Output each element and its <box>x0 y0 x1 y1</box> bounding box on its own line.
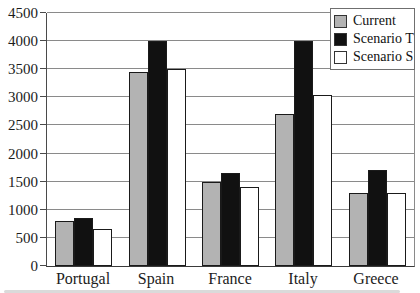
bar-scenario-s-greece <box>387 193 406 266</box>
legend-label-scenario-t: Scenario T <box>353 31 414 47</box>
bar-current-italy <box>275 114 294 266</box>
x-category-label-greece: Greece <box>331 270 420 288</box>
bar-scenario-t-france <box>221 173 240 266</box>
legend-item-scenario-t: Scenario T <box>334 30 411 48</box>
legend-swatch-scenario-t <box>334 33 347 46</box>
y-tick-label-4500: 4500 <box>0 5 38 21</box>
bar-scenario-t-italy <box>294 41 313 266</box>
y-tick-label-0: 0 <box>0 258 38 274</box>
bar-scenario-s-france <box>240 187 259 266</box>
legend-label-scenario-s: Scenario S <box>353 49 413 65</box>
bar-current-france <box>202 182 221 266</box>
bar-current-greece <box>349 193 368 266</box>
y-tick-label-2500: 2500 <box>0 117 38 133</box>
bar-scenario-t-portugal <box>74 218 93 266</box>
gridline-2500 <box>47 124 414 125</box>
y-tick-label-3000: 3000 <box>0 89 38 105</box>
bar-current-portugal <box>55 221 74 266</box>
y-tick-label-500: 500 <box>0 230 38 246</box>
y-tick-label-4000: 4000 <box>0 33 38 49</box>
bar-scenario-s-spain <box>167 69 186 266</box>
y-tick-label-3500: 3500 <box>0 61 38 77</box>
bar-scenario-t-greece <box>368 170 387 266</box>
gridline-3000 <box>47 96 414 97</box>
bar-scenario-s-portugal <box>93 229 112 266</box>
bar-scenario-t-spain <box>148 41 167 266</box>
legend-swatch-scenario-s <box>334 51 347 64</box>
bar-current-spain <box>129 72 148 266</box>
legend: CurrentScenario TScenario S <box>330 8 415 70</box>
y-tick-label-2000: 2000 <box>0 146 38 162</box>
legend-label-current: Current <box>353 13 396 29</box>
legend-item-current: Current <box>334 12 411 30</box>
bar-chart-figure: 050010001500200025003000350040004500 Por… <box>0 0 420 293</box>
legend-swatch-current <box>334 15 347 28</box>
bar-scenario-s-italy <box>313 95 332 266</box>
y-tick-label-1000: 1000 <box>0 202 38 218</box>
y-tick-label-1500: 1500 <box>0 174 38 190</box>
gridline-2000 <box>47 153 414 154</box>
legend-item-scenario-s: Scenario S <box>334 48 411 66</box>
